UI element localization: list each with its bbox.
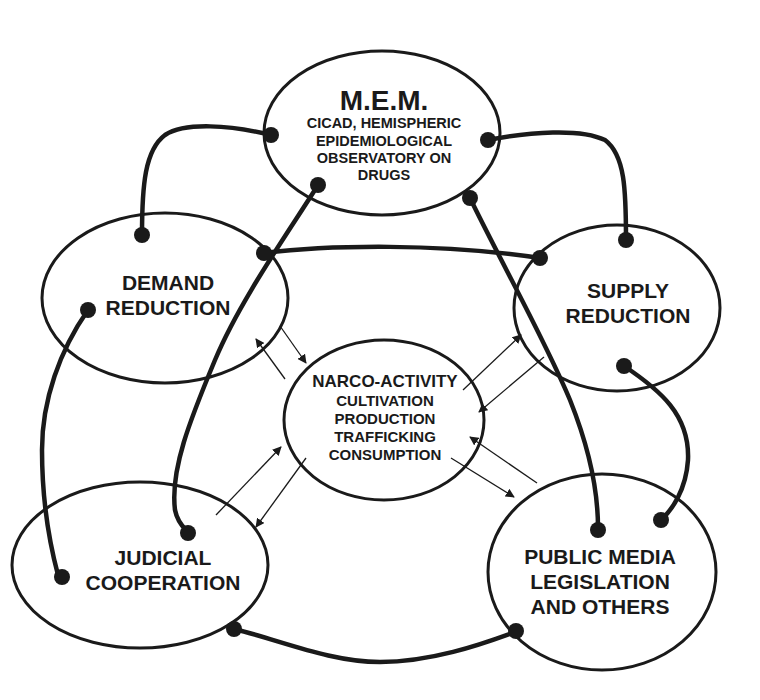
dot-public-top-left: [590, 522, 606, 538]
dot-mem-left: [263, 127, 279, 143]
mem-line-3: OBSERVATORY ON: [307, 150, 462, 167]
public-line-2: LEGISLATION: [524, 569, 676, 594]
dot-judicial-bottom: [226, 621, 242, 637]
supply-line-1: SUPPLY: [566, 278, 691, 303]
connector-mem-public: [470, 198, 598, 528]
node-demand-label: DEMAND REDUCTION: [106, 270, 231, 320]
dot-supply-left: [532, 250, 548, 266]
connector-judicial-public: [234, 629, 515, 662]
narco-line-2: PRODUCTION: [312, 410, 457, 428]
public-line-1: PUBLIC MEDIA: [524, 544, 676, 569]
node-public-label: PUBLIC MEDIA LEGISLATION AND OTHERS: [524, 544, 676, 620]
node-judicial-label: JUDICIAL COOPERATION: [86, 545, 241, 595]
flow-narco-to-judicial: [256, 458, 306, 527]
narco-line-1: CULTIVATION: [312, 392, 457, 410]
demand-line-1: DEMAND: [106, 270, 231, 295]
dot-public-top-right: [653, 512, 669, 528]
flow-narco-to-demand: [256, 339, 285, 379]
narco-title: NARCO-ACTIVITY: [312, 372, 457, 392]
narco-line-3: TRAFFICKING: [312, 428, 457, 446]
node-mem-label: M.E.M. CICAD, HEMISPHERIC EPIDEMIOLOGICA…: [307, 86, 462, 184]
connector-mem-judicial: [174, 185, 318, 530]
public-line-3: AND OTHERS: [524, 594, 676, 619]
dot-demand-right: [256, 245, 272, 261]
connector-demand-judicial: [42, 310, 88, 575]
mem-title: M.E.M.: [307, 86, 462, 115]
node-narco-label: NARCO-ACTIVITY CULTIVATION PRODUCTION TR…: [312, 372, 457, 464]
judicial-line-1: JUDICIAL: [86, 545, 241, 570]
flow-narco-to-public: [451, 458, 514, 497]
flow-judicial-to-narco: [216, 447, 281, 515]
mem-line-1: CICAD, HEMISPHERIC: [307, 115, 462, 132]
mem-line-2: EPIDEMIOLOGICAL: [307, 133, 462, 150]
judicial-line-2: COOPERATION: [86, 570, 241, 595]
dot-demand-inner: [80, 302, 96, 318]
dot-judicial-left: [54, 569, 70, 585]
narco-line-4: CONSUMPTION: [312, 446, 457, 464]
dot-public-bottom: [508, 623, 524, 639]
dot-supply-top: [618, 232, 634, 248]
flow-narco-to-supply: [463, 335, 521, 390]
dot-supply-inner: [616, 358, 632, 374]
connector-mem-supply: [488, 132, 626, 240]
flow-demand-to-narco: [280, 326, 306, 363]
dot-judicial-top: [180, 525, 196, 541]
demand-line-2: REDUCTION: [106, 295, 231, 320]
node-supply-label: SUPPLY REDUCTION: [566, 278, 691, 328]
mem-line-4: DRUGS: [307, 167, 462, 184]
supply-line-2: REDUCTION: [566, 303, 691, 328]
dot-demand-top: [134, 227, 150, 243]
dot-mem-right: [480, 132, 496, 148]
dot-mem-bottom-right: [462, 190, 478, 206]
